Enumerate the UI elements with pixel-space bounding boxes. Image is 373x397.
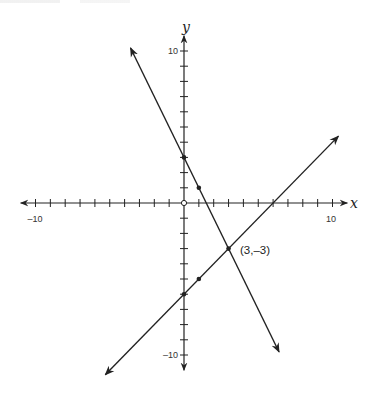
data-point	[197, 186, 202, 191]
origin-marker	[181, 200, 186, 205]
y-axis-name: y	[181, 19, 191, 35]
data-point	[226, 246, 231, 251]
y-max-label: 10	[168, 46, 178, 56]
marked-points	[181, 155, 230, 296]
intersection-label: (3,–3)	[240, 244, 270, 256]
line-1	[131, 48, 280, 352]
x-axis-name: x	[350, 195, 358, 211]
data-point	[182, 155, 187, 160]
x-min-label: –10	[27, 214, 42, 224]
line-2	[105, 136, 338, 375]
data-point	[182, 292, 187, 297]
coordinate-plane: –10 10 10 –10 x y (3,–3)	[0, 0, 373, 397]
plotted-lines	[105, 48, 338, 375]
data-point	[197, 277, 202, 282]
y-min-label: –10	[163, 350, 178, 360]
x-max-label: 10	[326, 214, 336, 224]
